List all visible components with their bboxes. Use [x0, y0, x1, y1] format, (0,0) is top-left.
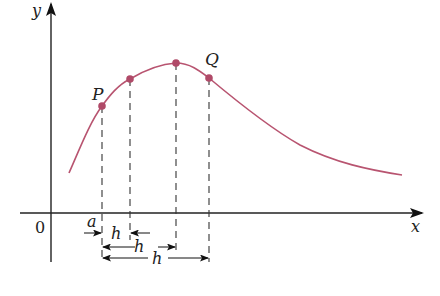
- function-curve: [69, 63, 402, 175]
- point-p-label: P: [91, 84, 104, 104]
- point-q: [205, 74, 213, 82]
- h2-label: h: [134, 237, 144, 256]
- x-axis-label: x: [411, 217, 420, 236]
- axes: [20, 4, 422, 262]
- h1-label: h: [111, 224, 121, 243]
- point-2: [126, 75, 134, 83]
- origin-label: 0: [35, 218, 45, 237]
- point-3: [172, 59, 180, 67]
- point-q-label: Q: [205, 49, 219, 69]
- h-dimensions: [84, 233, 208, 258]
- a-label: a: [87, 212, 97, 231]
- h3-label: h: [152, 249, 162, 268]
- y-axis-label: y: [31, 1, 42, 20]
- secant-line-diagram: y x 0 P Q a h h h: [0, 0, 440, 296]
